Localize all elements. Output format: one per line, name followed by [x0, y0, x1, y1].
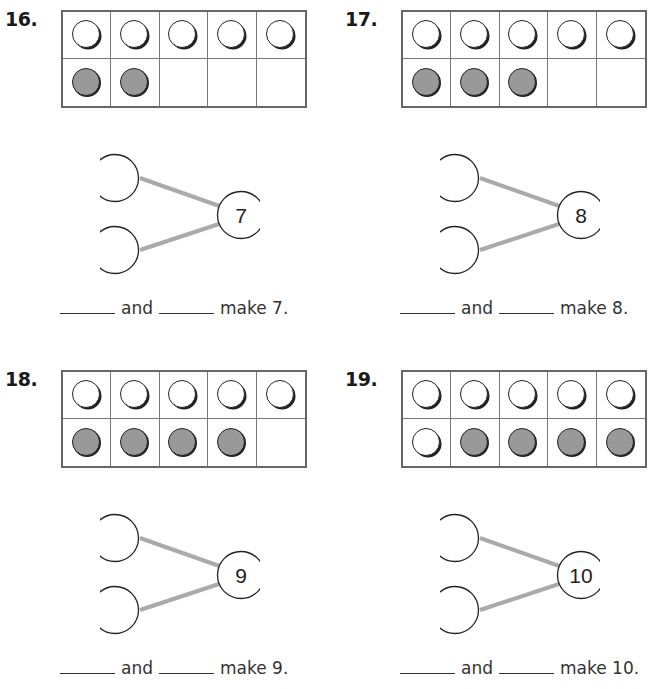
number-sentence: andmake 10. — [400, 658, 639, 678]
gray-counter-icon — [460, 428, 488, 456]
number-sentence: andmake 8. — [400, 298, 628, 318]
gray-counter-icon — [508, 68, 536, 96]
part-circle-top[interactable] — [100, 155, 139, 202]
number-sentence: andmake 7. — [60, 298, 288, 318]
white-counter-icon — [508, 380, 536, 408]
gray-counter-icon — [557, 428, 585, 456]
whole-number: 10 — [569, 564, 592, 587]
problem-17: 17. 8 andmake 8. — [340, 0, 664, 345]
ten-frame-cell — [500, 59, 548, 106]
gray-counter-icon — [606, 428, 634, 456]
white-counter-icon — [412, 428, 440, 456]
ten-frame-cell — [451, 372, 499, 419]
number-bond-diagram: 8 — [440, 140, 600, 280]
make-text: make 8. — [560, 298, 628, 318]
ten-frame-cell — [403, 59, 451, 106]
problem-16: 16. 7 andmake 7. — [0, 0, 330, 345]
ten-frame — [401, 370, 647, 468]
white-counter-icon — [606, 380, 634, 408]
and-text: and — [461, 298, 493, 318]
answer-blank-1[interactable] — [60, 672, 115, 674]
ten-frame-cell — [548, 59, 596, 106]
white-counter-icon — [217, 380, 245, 408]
ten-frame — [61, 10, 307, 108]
gray-counter-icon — [72, 428, 100, 456]
white-counter-icon — [266, 380, 294, 408]
problem-number: 16. — [5, 8, 37, 30]
gray-counter-icon — [412, 68, 440, 96]
ten-frame-cell — [111, 372, 159, 419]
ten-frame-cell — [208, 419, 256, 466]
ten-frame-cell — [160, 372, 208, 419]
ten-frame-cell — [257, 419, 305, 466]
ten-frame-cell — [257, 59, 305, 106]
gray-counter-icon — [217, 428, 245, 456]
ten-frame-cell — [160, 12, 208, 59]
number-bond-diagram: 7 — [100, 140, 260, 280]
gray-counter-icon — [508, 428, 536, 456]
problem-number: 17. — [345, 8, 377, 30]
ten-frame-cell — [111, 59, 159, 106]
problem-18: 18. 9 andmake 9. — [0, 360, 330, 689]
part-circle-top[interactable] — [440, 155, 479, 202]
answer-blank-2[interactable] — [499, 672, 554, 674]
white-counter-icon — [460, 20, 488, 48]
ten-frame-cell — [500, 372, 548, 419]
white-counter-icon — [412, 380, 440, 408]
gray-counter-icon — [120, 428, 148, 456]
number-sentence: andmake 9. — [60, 658, 288, 678]
part-circle-top[interactable] — [100, 515, 139, 562]
ten-frame-cell — [160, 59, 208, 106]
answer-blank-2[interactable] — [499, 312, 554, 314]
ten-frame-cell — [597, 372, 645, 419]
ten-frame-cell — [548, 419, 596, 466]
white-counter-icon — [217, 20, 245, 48]
ten-frame-cell — [451, 419, 499, 466]
ten-frame-cell — [257, 372, 305, 419]
answer-blank-2[interactable] — [159, 672, 214, 674]
ten-frame-cell — [597, 59, 645, 106]
white-counter-icon — [557, 20, 585, 48]
and-text: and — [461, 658, 493, 678]
gray-counter-icon — [120, 68, 148, 96]
ten-frame-cell — [111, 12, 159, 59]
number-bond-diagram: 9 — [100, 500, 260, 640]
ten-frame-cell — [63, 59, 111, 106]
ten-frame-cell — [208, 12, 256, 59]
answer-blank-2[interactable] — [159, 312, 214, 314]
white-counter-icon — [168, 20, 196, 48]
ten-frame-cell — [63, 12, 111, 59]
make-text: make 7. — [220, 298, 288, 318]
answer-blank-1[interactable] — [400, 672, 455, 674]
ten-frame-cell — [451, 59, 499, 106]
whole-number: 9 — [235, 564, 247, 587]
ten-frame-cell — [597, 12, 645, 59]
answer-blank-1[interactable] — [400, 312, 455, 314]
answer-blank-1[interactable] — [60, 312, 115, 314]
part-circle-bottom[interactable] — [440, 587, 479, 634]
ten-frame-cell — [403, 372, 451, 419]
ten-frame-cell — [160, 419, 208, 466]
whole-number: 8 — [575, 204, 587, 227]
part-circle-bottom[interactable] — [100, 227, 139, 274]
white-counter-icon — [120, 380, 148, 408]
white-counter-icon — [266, 20, 294, 48]
white-counter-icon — [606, 20, 634, 48]
ten-frame-cell — [111, 419, 159, 466]
problem-number: 18. — [5, 368, 37, 390]
part-circle-bottom[interactable] — [440, 227, 479, 274]
ten-frame-cell — [548, 372, 596, 419]
make-text: make 10. — [560, 658, 639, 678]
white-counter-icon — [557, 380, 585, 408]
ten-frame-cell — [403, 419, 451, 466]
ten-frame-cell — [208, 372, 256, 419]
part-circle-bottom[interactable] — [100, 587, 139, 634]
part-circle-top[interactable] — [440, 515, 479, 562]
white-counter-icon — [120, 20, 148, 48]
make-text: make 9. — [220, 658, 288, 678]
ten-frame-cell — [208, 59, 256, 106]
ten-frame — [61, 370, 307, 468]
problem-number: 19. — [345, 368, 377, 390]
ten-frame-cell — [257, 12, 305, 59]
white-counter-icon — [72, 20, 100, 48]
